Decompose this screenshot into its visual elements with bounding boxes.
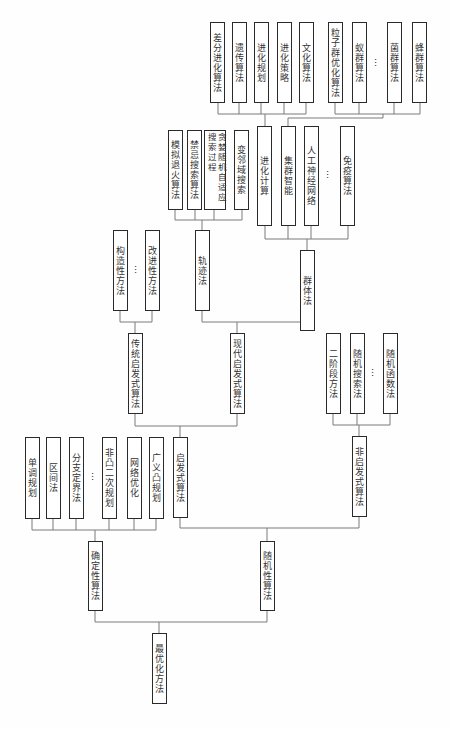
node-label: 进化规划 [256,43,266,83]
node-non-heuristic-child: 二阶段方法 [326,333,341,414]
node-swarm: 集群智能 [281,126,296,226]
node-det-child: 区间法 [46,437,61,519]
node-non-heuristic: 非启发式算法 [352,436,367,517]
node-non-heuristic-child: 随机搜索法 [350,333,365,414]
node-evolutionary: 进化计算 [257,126,272,226]
node-label: 现代启发式算法 [232,339,242,409]
node-heuristic: 启发式算法 [173,437,188,518]
node-label: 轨迹法 [197,256,207,286]
node-trajectory-child: 禁忌搜索算法 [187,130,202,210]
node-label: 二阶段方法 [328,349,338,399]
node-label: 菌群算法 [389,43,399,83]
node-label: 随机性算法 [262,551,272,601]
node-swarm-child: 菌群算法 [387,22,402,103]
node-label: 蜂群算法 [414,43,424,83]
node-population-child: 人工神经网络 [304,126,319,226]
ellipsis: … [133,265,143,274]
node-label: 非凸二次规划 [104,448,114,508]
node-label: 贪婪随机自适应搜索过程 [205,133,225,207]
node-label: 随机函数法 [385,349,395,399]
node-label: 网络优化 [129,458,139,498]
node-trajectory-child: 变邻域搜索 [234,130,249,210]
node-label: 遗传算法 [234,43,244,83]
node-deterministic: 确定性算法 [88,541,103,611]
node-evolutionary-child: 遗传算法 [232,22,247,103]
ellipsis: … [90,472,100,481]
ellipsis: … [370,368,380,377]
node-label: 粒子群优化算法 [330,28,340,98]
node-label: 差分进化算法 [212,33,222,93]
node-det-child: 非凸二次规划 [102,437,117,519]
node-label: 改进性方法 [147,246,157,296]
node-label: 构造性方法 [115,246,125,296]
node-det-child: 网络优化 [127,437,142,519]
node-label: 单调规划 [27,458,37,498]
node-traditional-child: 改进性方法 [145,230,160,311]
node-label: 确定性算法 [90,551,100,601]
node-label: 最优化方法 [154,644,164,694]
node-swarm-child: 蜂群算法 [412,22,427,103]
node-label: 随机搜索法 [352,349,362,399]
node-label: 模拟退火算法 [170,140,180,200]
node-population: 群体法 [300,250,315,331]
node-label: 区间法 [48,463,58,493]
node-label: 免疫算法 [342,156,352,196]
node-traditional: 传统启发式算法 [128,333,143,414]
ellipsis: … [223,163,233,172]
node-label: 启发式算法 [175,453,185,503]
node-label: 变邻域搜索 [236,145,246,195]
node-evolutionary-child: 进化策略 [277,22,292,103]
node-det-child: 分支定界法 [69,437,84,519]
node-swarm-child: 蚁群算法 [352,22,367,103]
node-modern: 现代启发式算法 [230,333,245,414]
node-trajectory: 轨迹法 [195,230,210,311]
node-non-heuristic-child: 随机函数法 [383,333,398,414]
node-label: 集群智能 [283,156,293,196]
optimization-taxonomy-diagram: 最优化方法 确定性算法 随机性算法 单调规划 区间法 分支定界法 … 非凸二次规… [0,0,450,729]
ellipsis: … [325,170,335,179]
node-population-child: 免疫算法 [340,126,355,226]
node-stochastic: 随机性算法 [260,541,275,611]
ellipsis: … [373,58,383,67]
node-det-child: 广义凸规划 [149,437,164,519]
node-evolutionary-child: 差分进化算法 [210,22,225,103]
node-label: 分支定界法 [71,453,81,503]
node-label: 人工神经网络 [306,146,316,206]
node-swarm-child: 粒子群优化算法 [328,22,343,103]
node-det-child: 单调规划 [25,437,40,519]
node-evolutionary-child: 文化算法 [299,22,314,103]
node-label: 群体法 [302,276,312,306]
node-label: 传统启发式算法 [130,339,140,409]
node-evolutionary-child: 进化规划 [254,22,269,103]
node-label: 进化策略 [279,43,289,83]
node-trajectory-child: 模拟退火算法 [168,130,183,210]
node-label: 禁忌搜索算法 [189,140,199,200]
node-label: 非启发式算法 [354,447,364,507]
node-label: 进化计算 [259,156,269,196]
node-label: 蚁群算法 [354,43,364,83]
node-label: 广义凸规划 [151,453,161,503]
node-traditional-child: 构造性方法 [113,230,128,311]
node-root: 最优化方法 [152,633,167,704]
node-label: 文化算法 [301,43,311,83]
